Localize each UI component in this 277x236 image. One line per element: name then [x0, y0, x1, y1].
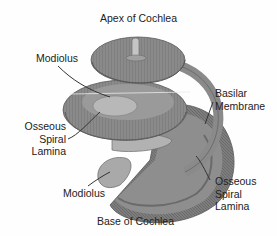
base-label: Base of Cochlea [97, 215, 174, 228]
cochlea-diagram: Apex of Cochlea Modiolus Osseous Spiral … [0, 0, 277, 236]
basilar-membrane-label: Basilar Membrane [215, 87, 265, 112]
modiolus-upper-label: Modiolus [36, 52, 78, 65]
osseous-spiral-lamina-left-label: Osseous Spiral Lamina [22, 120, 66, 158]
modiolus-lower-label: Modiolus [63, 187, 105, 200]
lower-modiolus-shape [98, 157, 131, 187]
osseous-spiral-lamina-right-label: Osseous Spiral Lamina [215, 175, 256, 213]
apical-turn [91, 37, 185, 83]
apex-label: Apex of Cochlea [100, 12, 177, 25]
